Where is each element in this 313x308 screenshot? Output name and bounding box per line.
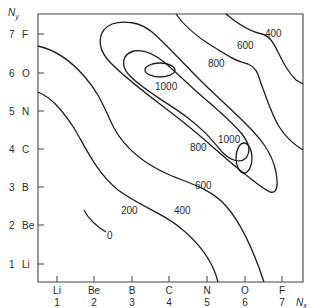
contour-label-400-low: 400 (174, 205, 191, 216)
y-tick-num: 4 (9, 144, 15, 155)
y-tick-element: B (22, 182, 29, 193)
contour-label-800-top: 800 (208, 58, 225, 69)
y-tick-num: 3 (9, 182, 15, 193)
y-axis-ticks (38, 34, 44, 264)
x-axis-labels: Li 1 Be 2 B 3 C 4 N 5 O 6 F 7 (53, 285, 285, 308)
contour-label-1000-left: 1000 (155, 81, 178, 92)
x-tick-num: 4 (166, 297, 172, 308)
contour-label-0: 0 (107, 230, 113, 241)
contour-label-1000-right: 1000 (218, 134, 241, 145)
y-axis-labels: 7 F 6 O 5 N 4 C 3 B 2 Be 1 Li (9, 29, 35, 270)
contour-1000-right (236, 143, 252, 173)
x-tick-element: Be (88, 285, 101, 296)
y-axis-title: Ny (8, 7, 19, 21)
plot-frame (38, 14, 303, 282)
y-tick-element: F (22, 29, 28, 40)
contour-600 (176, 14, 303, 150)
x-axis-title: Nx (296, 297, 307, 308)
x-tick-num: 2 (91, 297, 97, 308)
y-tick-num: 7 (9, 29, 15, 40)
x-tick-element: C (165, 285, 172, 296)
contour-label-600-top: 600 (237, 40, 254, 51)
x-tick-element: N (203, 285, 210, 296)
contour-0 (84, 210, 106, 232)
contour-1000-left (145, 63, 175, 77)
x-tick-num: 6 (242, 297, 248, 308)
y-tick-element: Li (22, 259, 30, 270)
contour-lines (38, 14, 303, 282)
y-tick-element: N (22, 106, 29, 117)
y-tick-num: 6 (9, 68, 15, 79)
contour-label-400-top: 400 (265, 28, 282, 39)
y-tick-element: Be (22, 220, 35, 231)
contour-label-800-low: 800 (190, 142, 207, 153)
y-tick-element: O (22, 68, 30, 79)
y-tick-element: C (22, 144, 29, 155)
y-tick-num: 1 (9, 259, 15, 270)
x-tick-element: B (129, 285, 136, 296)
y-tick-num: 2 (9, 220, 15, 231)
contour-plot: 7 F 6 O 5 N 4 C 3 B 2 Be 1 Li Ny Li 1 Be… (0, 0, 313, 308)
x-tick-element: O (241, 285, 249, 296)
x-tick-element: F (279, 285, 285, 296)
contour-label-200: 200 (121, 205, 138, 216)
contour-label-600-low: 600 (195, 180, 212, 191)
x-tick-num: 3 (129, 297, 135, 308)
x-tick-num: 7 (279, 297, 285, 308)
contour-600-lower (38, 46, 264, 282)
x-tick-element: Li (53, 285, 61, 296)
x-tick-num: 1 (54, 297, 60, 308)
x-tick-num: 5 (204, 297, 210, 308)
y-tick-num: 5 (9, 106, 15, 117)
x-axis-ticks (57, 276, 282, 282)
